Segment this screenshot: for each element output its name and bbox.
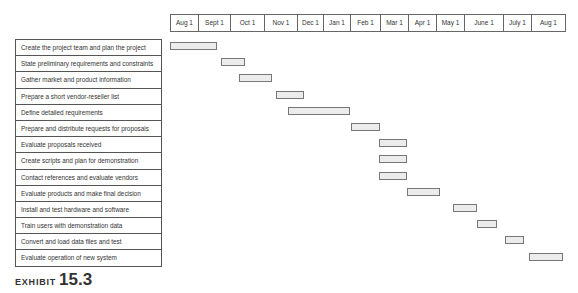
task-row: Create scripts and plan for demonstratio… — [16, 153, 161, 169]
task-row: Install and test hardware and software — [16, 202, 161, 218]
timeline-header-cell: Jan 1 — [324, 15, 351, 31]
timeline-header-cell: Mar 1 — [381, 15, 409, 31]
gantt-bar — [170, 42, 217, 50]
gantt-bar — [529, 253, 563, 261]
task-row: Create the project team and plan the pro… — [16, 40, 161, 56]
task-row: Prepare and distribute requests for prop… — [16, 121, 161, 137]
timeline-header-cell: July 1 — [504, 15, 532, 31]
timeline-header-cell: Apr 1 — [409, 15, 437, 31]
timeline-header-cell: Feb 1 — [351, 15, 381, 31]
task-row: Evaluate products and make final decisio… — [16, 186, 161, 202]
exhibit-caption: EXHIBIT15.3 — [15, 270, 92, 290]
timeline-header-cell: Aug 1 — [532, 15, 566, 31]
timeline-header-cell: May 1 — [437, 15, 465, 31]
timeline-header-cell: Sept 1 — [199, 15, 231, 31]
gantt-bar — [453, 204, 477, 212]
gantt-bar — [351, 123, 380, 131]
timeline-header-cell: Oct 1 — [231, 15, 265, 31]
gantt-bar — [221, 58, 245, 66]
task-list: Create the project team and plan the pro… — [15, 39, 162, 267]
timeline-header-cell: June 1 — [465, 15, 504, 31]
task-row: Train users with demonstration data — [16, 218, 161, 234]
gantt-bar — [477, 220, 497, 228]
exhibit-number: 15.3 — [59, 270, 92, 289]
gantt-bar — [379, 139, 407, 147]
task-row: Convert and load data files and test — [16, 234, 161, 250]
gantt-bar — [505, 236, 524, 244]
gantt-bar — [407, 188, 440, 196]
task-row: Contact references and evaluate vendors — [16, 170, 161, 186]
gantt-bar — [239, 74, 272, 82]
task-row: Define detailed requirements — [16, 105, 161, 121]
task-row: State preliminary requirements and const… — [16, 56, 161, 72]
task-row: Evaluate proposals received — [16, 137, 161, 153]
timeline-header-cell: Aug 1 — [171, 15, 199, 31]
timeline-header: Aug 1Sept 1Oct 1Nov 1Dec 1Jan 1Feb 1Mar … — [170, 14, 566, 32]
timeline-header-cell: Dec 1 — [298, 15, 324, 31]
gantt-bar — [276, 91, 304, 99]
task-row: Prepare a short vendor-reseller list — [16, 89, 161, 105]
gantt-bar — [379, 172, 407, 180]
task-row: Evaluate operation of new system — [16, 250, 161, 266]
task-row: Gather market and product information — [16, 72, 161, 88]
timeline-header-cell: Nov 1 — [265, 15, 298, 31]
gantt-bar — [379, 155, 407, 163]
exhibit-label: EXHIBIT — [15, 277, 56, 287]
gantt-bar — [288, 107, 350, 115]
